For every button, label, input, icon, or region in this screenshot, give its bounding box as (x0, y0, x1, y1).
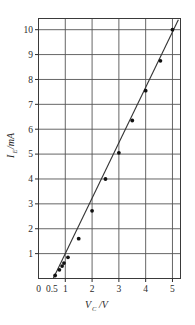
x-tick-label: 1 (63, 284, 68, 294)
y-tick-label: 6 (28, 125, 33, 135)
data-point (62, 261, 66, 265)
x-tick-label: 4 (143, 284, 148, 294)
data-point (90, 209, 94, 213)
y-tick-label: 10 (24, 25, 34, 35)
data-point (66, 255, 70, 259)
data-point (144, 89, 148, 93)
y-tick-label: 3 (28, 199, 33, 209)
x-axis-title-subscript: C (92, 305, 97, 312)
chart-figure: 12345678910 00.512345 V C /V I E /mA (0, 0, 195, 325)
y-tick-label: 5 (28, 149, 33, 159)
data-point (130, 119, 134, 123)
y-tick-label: 8 (28, 75, 33, 85)
data-point (117, 151, 121, 155)
x-tick-label: 0.5 (46, 284, 58, 294)
data-point (104, 177, 108, 181)
y-tick-label: 2 (28, 224, 33, 234)
y-axis-title-symbol: I (5, 154, 16, 159)
y-axis-title-subscript: E (11, 150, 18, 155)
y-tick-label: 4 (28, 174, 33, 184)
x-tick-label: 3 (117, 284, 122, 294)
data-point (77, 237, 81, 241)
x-tick-label: 5 (170, 284, 175, 294)
data-point (53, 274, 57, 278)
data-point (57, 268, 61, 272)
y-tick-label: 1 (28, 249, 33, 259)
y-tick-label: 7 (28, 100, 33, 110)
iv-characteristic-chart: 12345678910 00.512345 V C /V I E /mA (0, 0, 195, 325)
y-axis-title-unit: /mA (5, 132, 16, 150)
y-tick-label: 9 (28, 50, 33, 60)
data-point (171, 28, 175, 32)
x-tick-label: 0 (36, 284, 41, 294)
x-tick-label: 2 (90, 284, 95, 294)
y-axis-title: I E /mA (5, 132, 18, 159)
data-point (159, 59, 163, 63)
chart-background (0, 0, 195, 325)
